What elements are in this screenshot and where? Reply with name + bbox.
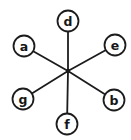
diagram-canvas: debfga — [0, 0, 131, 140]
star-diagram: debfga — [0, 0, 131, 140]
node-label-a: a — [20, 39, 28, 54]
node-label-f: f — [64, 117, 70, 132]
node-label-d: d — [64, 14, 73, 29]
node-label-e: e — [111, 38, 119, 53]
node-label-g: g — [19, 92, 28, 107]
center-dot — [66, 69, 70, 73]
node-label-b: b — [110, 93, 119, 108]
